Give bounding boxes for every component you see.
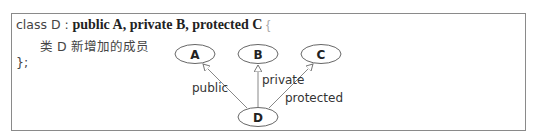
svg-text:D: D xyxy=(253,111,263,125)
edge-label-protected: protected xyxy=(285,91,343,105)
edge-label-private: private xyxy=(262,73,304,87)
node-a: A xyxy=(175,45,215,64)
svg-text:A: A xyxy=(190,48,200,62)
svg-text:B: B xyxy=(253,48,262,62)
node-c: C xyxy=(301,45,341,64)
inheritance-diagram: A B C D public private protected xyxy=(0,0,533,139)
node-d: D xyxy=(238,108,278,127)
edge-label-public: public xyxy=(192,81,228,95)
svg-text:C: C xyxy=(317,48,326,62)
node-b: B xyxy=(238,45,278,64)
